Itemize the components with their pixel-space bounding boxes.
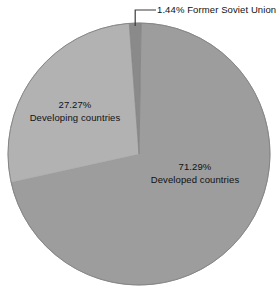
pie-label-soviet-pct: 1.44% [157, 4, 184, 15]
pie-chart-figure: 27.27% Developing countries 71.29% Devel… [0, 0, 280, 299]
pie-label-soviet: 1.44% Former Soviet Union [157, 3, 279, 16]
pie-label-developed: 71.29% Developed countries [122, 161, 268, 186]
pie-label-developed-name: Developed countries [122, 174, 268, 187]
pie-label-soviet-name: Former Soviet Union [187, 4, 276, 15]
pie-label-developing-pct: 27.27% [12, 99, 138, 112]
pie-label-developed-pct: 71.29% [122, 161, 268, 174]
pie-chart-graphic [0, 0, 280, 299]
pie-label-developing: 27.27% Developing countries [12, 99, 138, 124]
pie-label-developing-name: Developing countries [12, 112, 138, 125]
